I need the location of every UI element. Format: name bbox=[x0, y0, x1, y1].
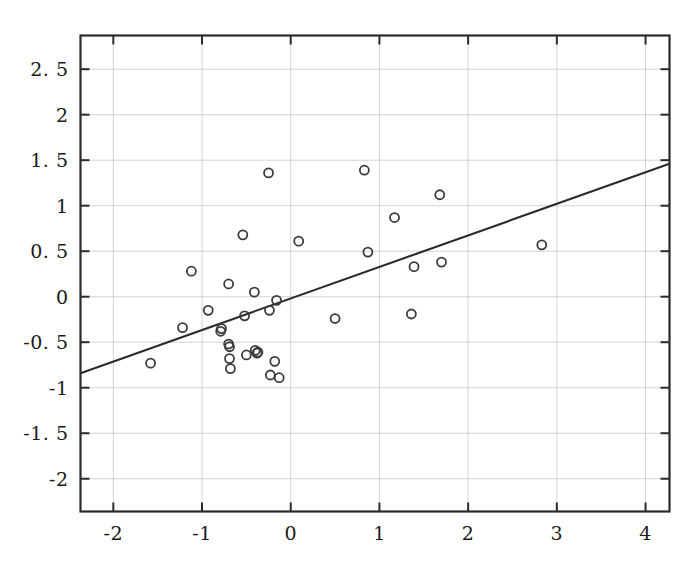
data-point-marker bbox=[178, 323, 187, 332]
data-point-marker bbox=[363, 248, 372, 257]
y-axis-tick-label: -1 bbox=[49, 377, 69, 399]
data-point-marker bbox=[294, 237, 303, 246]
data-point-marker bbox=[187, 267, 196, 276]
y-axis-tick-label: -1. 5 bbox=[23, 422, 68, 444]
data-point-marker bbox=[224, 279, 233, 288]
regression-line-path bbox=[81, 164, 670, 373]
y-axis-tick-label: 0. 5 bbox=[30, 240, 68, 262]
data-point-marker bbox=[360, 166, 369, 175]
y-axis-tick-label: 2. 5 bbox=[30, 58, 68, 80]
data-point-marker bbox=[226, 364, 235, 373]
y-axis-tick-label: 1 bbox=[56, 195, 69, 217]
scatter-plot-figure: 2. 521. 510. 50-0. 5-1-1. 5-2-2-101234 bbox=[0, 0, 697, 571]
plot-canvas bbox=[0, 0, 697, 571]
y-axis-tick-label: 1. 5 bbox=[30, 149, 68, 171]
data-point-marker bbox=[275, 373, 284, 382]
data-point-marker bbox=[225, 354, 234, 363]
data-point-marker bbox=[250, 288, 259, 297]
grid-lines bbox=[81, 36, 670, 512]
data-points bbox=[146, 166, 546, 383]
data-point-marker bbox=[331, 314, 340, 323]
data-point-marker bbox=[264, 168, 273, 177]
y-axis-tick-label: 2 bbox=[56, 104, 69, 126]
x-axis-tick-label: 0 bbox=[284, 522, 297, 544]
data-point-marker bbox=[435, 190, 444, 199]
data-point-marker bbox=[265, 306, 274, 315]
data-point-marker bbox=[390, 213, 399, 222]
data-point-marker bbox=[537, 240, 546, 249]
data-point-marker bbox=[407, 310, 416, 319]
x-axis-tick-label: 1 bbox=[373, 522, 386, 544]
axis-ticks bbox=[81, 36, 670, 512]
data-point-marker bbox=[146, 359, 155, 368]
data-point-marker bbox=[266, 370, 275, 379]
plot-frame bbox=[81, 36, 670, 512]
data-point-marker bbox=[410, 262, 419, 271]
x-axis-tick-label: -2 bbox=[104, 522, 124, 544]
regression-line bbox=[81, 164, 670, 373]
data-point-marker bbox=[242, 350, 251, 359]
x-axis-tick-label: 4 bbox=[639, 522, 652, 544]
data-point-marker bbox=[437, 258, 446, 267]
axis-frame bbox=[81, 36, 670, 512]
data-point-marker bbox=[238, 230, 247, 239]
y-axis-tick-label: -2 bbox=[49, 468, 69, 490]
x-axis-tick-label: -1 bbox=[192, 522, 212, 544]
y-axis-tick-label: 0 bbox=[56, 286, 69, 308]
x-axis-tick-label: 3 bbox=[551, 522, 564, 544]
y-axis-tick-label: -0. 5 bbox=[23, 331, 68, 353]
data-point-marker bbox=[270, 357, 279, 366]
data-point-marker bbox=[204, 306, 213, 315]
x-axis-tick-label: 2 bbox=[462, 522, 475, 544]
